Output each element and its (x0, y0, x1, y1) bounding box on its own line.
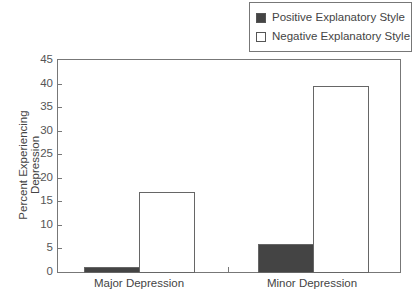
y-tick (57, 107, 62, 108)
y-tick-label: 45 (33, 53, 53, 65)
y-tick (57, 178, 62, 179)
y-tick (57, 201, 62, 202)
y-tick-label: 20 (33, 171, 53, 183)
y-tick-label: 40 (33, 77, 53, 89)
y-tick (57, 248, 62, 249)
y-tick-label: 30 (33, 124, 53, 136)
y-tick-label: 35 (33, 100, 53, 112)
bar-negative-minor (313, 86, 369, 273)
y-tick-label: 25 (33, 147, 53, 159)
y-tick (57, 84, 62, 85)
legend-swatch-negative (256, 32, 266, 42)
y-tick-label: 15 (33, 194, 53, 206)
y-tick (57, 225, 62, 226)
y-tick (57, 154, 62, 155)
y-tick-label: 0 (33, 265, 53, 277)
legend-label: Negative Explanatory Style (272, 30, 410, 42)
x-label-minor: Minor Depression (242, 277, 382, 289)
bar-negative-major (139, 192, 195, 273)
legend-swatch-positive (256, 13, 266, 23)
y-tick-label: 5 (33, 241, 53, 253)
x-label-major: Major Depression (69, 277, 209, 289)
legend: Positive Explanatory Style Negative Expl… (249, 2, 412, 52)
y-tick-label: 10 (33, 218, 53, 230)
x-axis-tick (228, 267, 229, 272)
bar-positive-major (84, 267, 140, 273)
bar-positive-minor (258, 244, 314, 273)
legend-label: Positive Explanatory Style (272, 11, 405, 23)
y-tick (57, 131, 62, 132)
